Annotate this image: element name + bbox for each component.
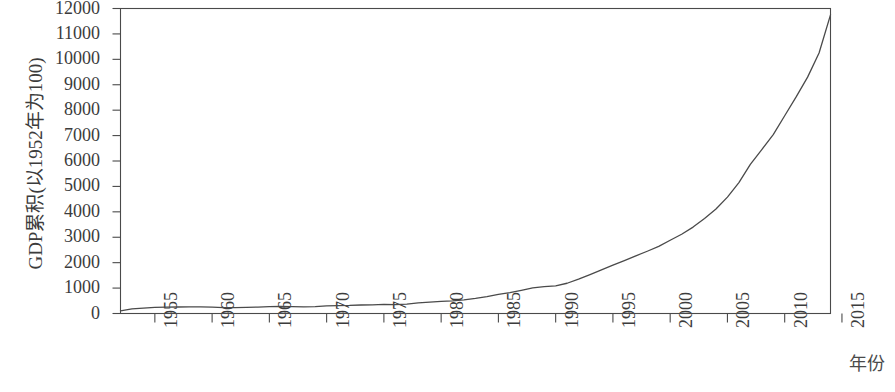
x-axis-ticks	[155, 314, 842, 323]
plot-frame	[121, 9, 831, 314]
y-axis-ticks	[113, 9, 121, 314]
gdp-cumulative-index-chart: GDP累积(以1952年为100) 1200011000100009000800…	[0, 0, 895, 392]
plot-area	[0, 0, 895, 392]
gdp-index-line	[121, 15, 831, 311]
